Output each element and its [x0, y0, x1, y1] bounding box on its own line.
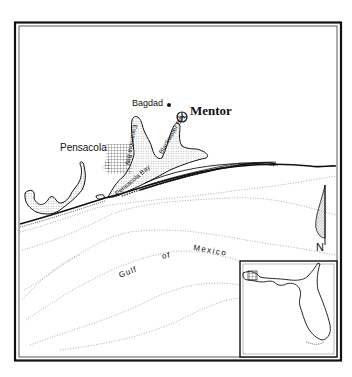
north-arrow-icon [316, 185, 325, 245]
north-arrow-label: N [316, 242, 324, 253]
pensacola-label: Pensacola [60, 143, 107, 153]
of-label: of [161, 251, 171, 260]
florida-inset [240, 261, 337, 357]
map [0, 0, 352, 377]
bagdad-point [167, 103, 171, 107]
bagdad-label: Bagdad [132, 99, 163, 108]
mentor-label: Mentor [190, 104, 232, 117]
